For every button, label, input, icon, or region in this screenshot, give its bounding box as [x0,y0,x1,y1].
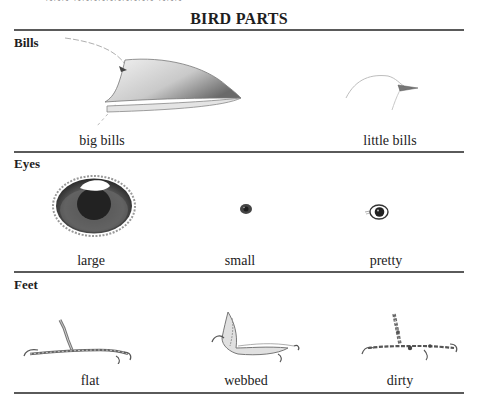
flat-foot-illustration [20,318,135,364]
little-bill-illustration [340,70,420,114]
caption-little-bills: little bills [330,133,450,149]
large-eye-illustration [50,172,138,238]
webbed-foot-illustration [208,308,303,366]
caption-small: small [180,253,300,269]
section-label-feet: Feet [14,277,38,293]
caption-large: large [31,253,151,269]
bills-divider [14,151,464,153]
big-bill-illustration [55,36,245,132]
caption-dirty: dirty [340,373,460,389]
dirty-foot-illustration [360,310,460,364]
eyes-divider [14,271,464,273]
pretty-eye-illustration [363,202,393,222]
caption-flat: flat [30,373,150,389]
cut-off-header-text: ~~~ ~~~~~~~~~~ ~~~ [46,0,183,8]
section-label-bills: Bills [14,35,39,51]
caption-pretty: pretty [326,253,446,269]
feet-divider [14,392,464,394]
caption-webbed: webbed [186,373,306,389]
section-label-eyes: Eyes [14,156,40,172]
small-eye-illustration [238,202,254,216]
caption-big-bills: big bills [42,133,162,149]
page-title: BIRD PARTS [0,10,478,28]
title-divider [14,29,464,31]
